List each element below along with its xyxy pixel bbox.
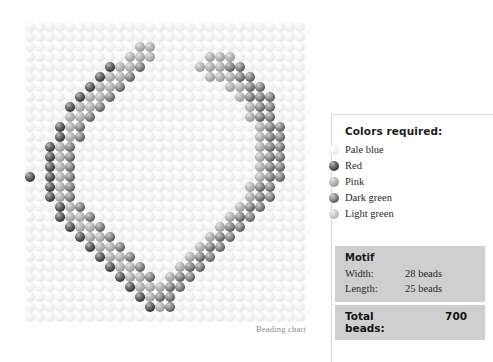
bead-pale-blue [145, 132, 155, 142]
bead-red [55, 122, 65, 132]
bead-dark-green [65, 182, 75, 192]
bead-pale-blue [155, 82, 165, 92]
bead-pale-blue [135, 252, 145, 262]
bead-pale-blue [265, 262, 275, 272]
bead-red [125, 282, 135, 292]
bead-pale-blue [295, 172, 305, 182]
bead-pale-blue [245, 302, 255, 312]
motif-summary-table: Motif Width: 28 beads Length: 25 beads T… [335, 246, 485, 340]
bead-pale-blue [75, 172, 85, 182]
bead-pale-blue [105, 52, 115, 62]
bead-pale-blue [115, 172, 125, 182]
bead-pale-blue [215, 152, 225, 162]
bead-pale-blue [185, 182, 195, 192]
bead-pale-blue [155, 72, 165, 82]
bead-pale-blue [115, 112, 125, 122]
bead-pale-blue [175, 112, 185, 122]
motif-width-value: 28 beads [405, 266, 475, 281]
bead-red [55, 202, 65, 212]
bead-dark-green [255, 192, 265, 202]
bead-pale-blue [125, 122, 135, 132]
bead-pale-blue [135, 32, 145, 42]
bead-pale-blue [255, 242, 265, 252]
bead-pale-blue [215, 22, 225, 32]
bead-pink [65, 132, 75, 142]
bead-pale-blue [135, 232, 145, 242]
bead-dark-green [65, 192, 75, 202]
bead-pale-blue [115, 122, 125, 132]
bead-pale-blue [245, 292, 255, 302]
bead-pink [75, 102, 85, 112]
bead-pale-blue [65, 42, 75, 52]
bead-pale-blue [135, 312, 145, 322]
bead-dark-green [135, 262, 145, 272]
bead-pink [235, 92, 245, 102]
bead-pale-blue [75, 72, 85, 82]
bead-pale-blue [145, 252, 155, 262]
bead-pale-blue [195, 42, 205, 52]
bead-pale-blue [105, 42, 115, 52]
bead-pale-blue [155, 132, 165, 142]
bead-pink [245, 192, 255, 202]
bead-pale-blue [165, 32, 175, 42]
bead-pale-blue [25, 282, 35, 292]
chart-caption: Beading chart [200, 324, 306, 334]
bead-pale-blue [295, 182, 305, 192]
bead-pale-blue [25, 42, 35, 52]
bead-pale-blue [285, 62, 295, 72]
bead-pale-blue [85, 182, 95, 192]
bead-pale-blue [135, 92, 145, 102]
bead-pink [125, 262, 135, 272]
bead-pale-blue [135, 172, 145, 182]
bead-dark-green [275, 132, 285, 142]
bead-pale-blue [195, 192, 205, 202]
bead-pale-blue [265, 212, 275, 222]
bead-pale-blue [95, 312, 105, 322]
bead-pale-blue [55, 282, 65, 292]
bead-red [105, 262, 115, 272]
bead-pale-blue [195, 102, 205, 112]
bead-pale-blue [215, 302, 225, 312]
bead-pale-blue [35, 92, 45, 102]
bead-pink [135, 42, 145, 52]
bead-pale-blue [285, 252, 295, 262]
bead-dark-green [265, 162, 275, 172]
bead-dark-green [175, 282, 185, 292]
bead-dark-green [105, 232, 115, 242]
bead-pale-blue [235, 112, 245, 122]
bead-pale-blue [185, 122, 195, 132]
bead-red [45, 192, 55, 202]
bead-pale-blue [25, 52, 35, 62]
bead-pale-blue [235, 122, 245, 132]
bead-pale-blue [35, 192, 45, 202]
bead-pale-blue [235, 42, 245, 52]
bead-pale-blue [265, 32, 275, 42]
bead-pale-blue [125, 82, 135, 92]
bead-pale-blue [195, 72, 205, 82]
bead-pale-blue [255, 302, 265, 312]
bead-pink [65, 122, 75, 132]
bead-pale-blue [215, 202, 225, 212]
bead-pale-blue [45, 132, 55, 142]
bead-pale-blue [215, 132, 225, 142]
bead-pale-blue [295, 42, 305, 52]
bead-dark-green [255, 202, 265, 212]
bead-pale-blue [75, 242, 85, 252]
bead-pale-blue [225, 142, 235, 152]
bead-pink [115, 252, 125, 262]
bead-pale-blue [115, 192, 125, 202]
bead-pale-blue [295, 112, 305, 122]
bead-pale-blue [145, 182, 155, 192]
bead-pale-blue [295, 152, 305, 162]
bead-pale-blue [235, 182, 245, 192]
bead-pale-blue [265, 242, 275, 252]
bead-pale-blue [185, 82, 195, 92]
bead-dark-green [115, 242, 125, 252]
bead-pale-blue [35, 262, 45, 272]
bead-pink [215, 52, 225, 62]
bead-pale-blue [25, 252, 35, 262]
bead-pale-blue [195, 152, 205, 162]
bead-pale-blue [285, 102, 295, 112]
bead-pale-blue [105, 312, 115, 322]
bead-dark-green [245, 92, 255, 102]
